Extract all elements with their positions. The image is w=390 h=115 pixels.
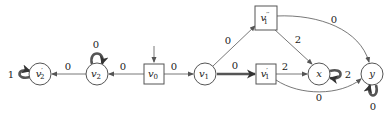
edge-label: 0 — [316, 92, 322, 103]
game-graph-diagram: 0 0 0 1 0 0 0 2 0 2 — [0, 0, 390, 115]
edge-label: 0 — [225, 35, 231, 46]
edge-v1pp-y: 0 — [276, 14, 369, 62]
edge-label: 1 — [8, 69, 14, 80]
edge-label: 2 — [295, 34, 301, 45]
svg-text:y: y — [368, 68, 375, 79]
edge-v0-v1: 0 — [164, 61, 193, 74]
edge-v1pp-x: 2 — [274, 29, 312, 64]
node-x: x — [308, 63, 330, 85]
node-v2: v2 — [86, 63, 108, 85]
edge-x-loop: 2 — [330, 69, 351, 80]
node-v1p: v′1 — [256, 64, 276, 84]
edge-label: 0 — [232, 60, 238, 71]
edge-label: 0 — [120, 61, 126, 72]
node-y: y — [361, 63, 383, 85]
edge-label: 2 — [345, 69, 351, 80]
node-v0: v0 — [144, 64, 164, 84]
edge-y-loop: 0 — [369, 85, 376, 112]
node-v1pp: v′′1 — [255, 6, 277, 30]
edge-v1-v1p: 0 — [217, 60, 255, 74]
edge-v2-v2p: 0 — [52, 61, 86, 74]
edge-label: 0 — [171, 61, 177, 72]
edge-label: 0 — [331, 14, 337, 25]
edge-label: 2 — [282, 61, 288, 72]
edge-label: 0 — [65, 61, 71, 72]
edge-v0-v2: 0 — [109, 61, 144, 74]
edge-label: 0 — [93, 39, 99, 50]
node-v1: v1 — [194, 63, 216, 85]
edge-v2-loop: 0 — [91, 39, 102, 64]
edge-label: 0 — [370, 101, 376, 112]
edge-v1p-x: 2 — [276, 61, 307, 74]
node-v2p: v′2 — [29, 63, 51, 85]
svg-text:x: x — [316, 68, 322, 79]
edge-v2p-loop: 1 — [8, 69, 30, 80]
